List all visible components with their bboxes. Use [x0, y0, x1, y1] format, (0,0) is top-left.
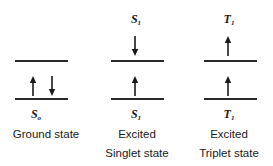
spin-up-arrow-icon — [28, 76, 38, 96]
singlet-upper-level-line — [111, 60, 164, 62]
singlet-lower-level-line — [111, 98, 164, 100]
singlet-caption-line2: Singlet state — [87, 146, 187, 160]
spin-up-arrow-icon — [223, 36, 233, 56]
triplet-bottom-symbol: T1 — [209, 107, 249, 125]
triplet-caption-line2: Triplet state — [179, 146, 273, 160]
spin-state-diagram: So Ground state S1 S1 Excited Singlet st… — [0, 0, 273, 166]
singlet-caption-line1: Excited — [87, 127, 187, 141]
spin-down-arrow-icon — [130, 36, 140, 56]
ground-upper-level-line — [15, 60, 68, 62]
spin-up-arrow-icon — [130, 76, 140, 96]
triplet-upper-level-line — [204, 60, 257, 62]
triplet-caption-line1: Excited — [179, 127, 273, 141]
singlet-bottom-symbol: S1 — [116, 107, 156, 125]
ground-state-caption: Ground state — [0, 127, 96, 141]
spin-down-arrow-icon — [47, 76, 57, 96]
spin-up-arrow-icon — [223, 76, 233, 96]
ground-lower-level-line — [15, 98, 68, 100]
triplet-lower-level-line — [204, 98, 257, 100]
ground-state-symbol: So — [16, 107, 56, 125]
singlet-top-symbol: S1 — [116, 12, 156, 30]
triplet-top-symbol: T1 — [209, 12, 249, 30]
